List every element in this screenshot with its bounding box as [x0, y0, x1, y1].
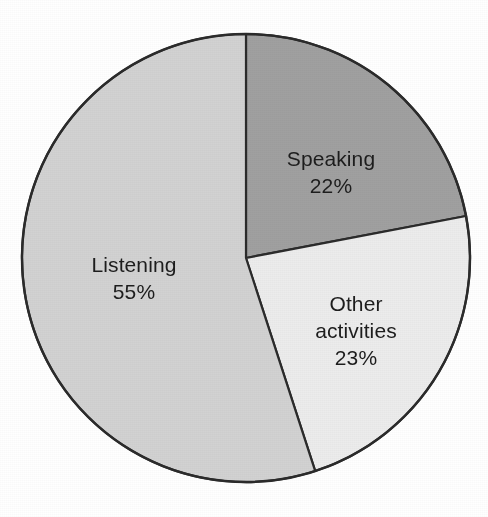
slice-label-listening-name: Listening — [92, 251, 177, 278]
slice-label-other-activities-name-line2: activities — [315, 317, 397, 344]
pie-chart: Speaking 22% Other activities 23% Listen… — [0, 0, 488, 517]
slice-label-listening: Listening 55% — [92, 251, 177, 305]
pie-slices-group — [22, 34, 470, 482]
slice-label-other-activities-value: 23% — [315, 344, 397, 371]
slice-label-speaking-value: 22% — [287, 172, 375, 199]
slice-label-other-activities-name-line1: Other — [315, 290, 397, 317]
slice-label-listening-value: 55% — [92, 278, 177, 305]
slice-label-speaking: Speaking 22% — [287, 145, 375, 199]
pie-chart-canvas — [0, 0, 488, 517]
slice-label-other-activities: Other activities 23% — [315, 290, 397, 371]
slice-label-speaking-name: Speaking — [287, 145, 375, 172]
